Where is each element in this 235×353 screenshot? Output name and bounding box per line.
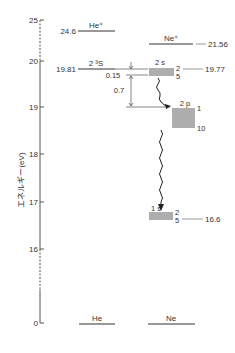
gap-small: 0.15	[106, 71, 121, 80]
he-ion-energy: 24.6	[60, 27, 76, 36]
ne-2s-energy: 19.77	[205, 65, 226, 74]
he-ion-label: He⁺	[89, 21, 103, 30]
ne-levels: Ne⁺ 21.56 2 s 2 5 19.77 2 p 1	[148, 34, 229, 324]
he-levels: He⁺ 24.6 2 ³S 19.81 He	[56, 21, 115, 324]
ne-2p-top: 1	[197, 104, 201, 113]
tick-20: 20	[29, 57, 38, 66]
ne-1s-energy: 16.6	[205, 215, 221, 224]
he-metastable-energy: 19.81	[56, 65, 77, 74]
transition-2p-1s-arrow	[158, 130, 164, 211]
tick-17: 17	[29, 198, 38, 207]
ne-2s-label: 2 s	[155, 58, 165, 67]
energy-axis	[40, 20, 44, 323]
tick-25: 25	[29, 16, 38, 25]
energy-level-diagram: 25 20 19 18 17 16 0 エネルギー(eV) He⁺ 24.6 2…	[0, 0, 235, 353]
ne-ion-energy: 21.56	[208, 40, 229, 49]
ne-2p-label: 2 p	[180, 99, 190, 108]
he-ground-label: He	[92, 314, 103, 323]
tick-16: 16	[29, 245, 38, 254]
tick-19: 19	[29, 103, 38, 112]
gap-large: 0.7	[114, 86, 124, 95]
ne-ion-label: Ne⁺	[164, 34, 178, 43]
axis-label: エネルギー(eV)	[17, 152, 26, 207]
ne-2s-bottom: 5	[176, 72, 180, 81]
ne-ground-label: Ne	[166, 314, 177, 323]
ne-2p-bottom: 10	[197, 124, 205, 133]
transition-2s-2p-arrow	[157, 78, 172, 109]
ne-1s-bottom: 5	[175, 216, 179, 225]
tick-18: 18	[29, 150, 38, 159]
tick-0: 0	[34, 319, 39, 328]
he-metastable-label: 2 ³S	[89, 59, 104, 68]
